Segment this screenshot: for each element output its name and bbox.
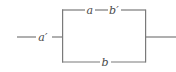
edge-label-bottom: b bbox=[101, 57, 108, 68]
edge-label-top-left: a bbox=[87, 5, 94, 16]
diagram-canvas: a′ a b′ b bbox=[0, 0, 176, 72]
edge-label-input: a′ bbox=[38, 32, 47, 43]
edge-label-top-right: b′ bbox=[109, 5, 119, 16]
